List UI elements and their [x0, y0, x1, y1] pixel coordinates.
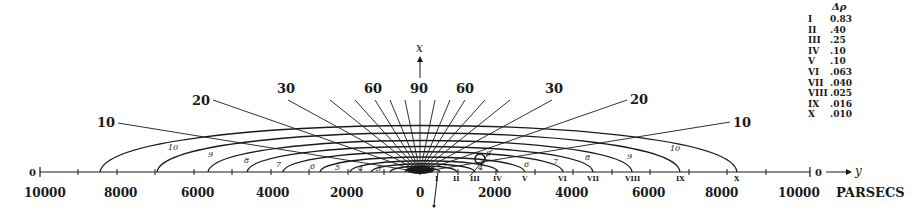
tick-label-left-4000: 4000: [256, 186, 289, 200]
y-axis-label: y: [854, 164, 862, 178]
x-axis-label: x: [416, 41, 423, 55]
legend-num: X: [808, 109, 830, 120]
legend-row: II.40: [808, 25, 908, 36]
legend-num: VII: [808, 78, 830, 89]
legend-row: V.10: [808, 56, 908, 67]
tick-label-left-10000: 10000: [24, 186, 66, 200]
legend-num: V: [808, 56, 830, 67]
legend-val: .25: [830, 35, 870, 46]
roman-X: X: [734, 174, 740, 183]
y-axis-arrow: [826, 169, 852, 175]
ellipse-num-10-left: 10: [168, 143, 178, 152]
legend-row: VIII.025: [808, 88, 908, 99]
legend-val: .040: [830, 78, 870, 89]
angle-label-60-right: 60: [456, 81, 474, 96]
roman-VII: VII: [586, 174, 599, 183]
legend-val: 0.83: [830, 14, 870, 25]
legend-header: Δρ: [808, 2, 908, 14]
roman-VI: VI: [557, 174, 567, 183]
units-label: PARSECS: [836, 185, 905, 200]
ellipse-num-6-right: 6: [524, 160, 529, 169]
angle-label-10-left: 10: [97, 115, 115, 130]
legend-row: IV.10: [808, 46, 908, 57]
end-zero-left: 0: [29, 167, 36, 178]
ellipse-num-8-left: 8: [244, 156, 249, 165]
radial-50-left: [355, 100, 420, 172]
legend-val: .10: [830, 46, 870, 57]
angle-label-60-left: 60: [364, 81, 382, 96]
roman-I: I: [435, 174, 438, 183]
tick-label-left-6000: 6000: [181, 186, 214, 200]
radial-lines: [118, 100, 730, 174]
ellipse-num-9-right: 9: [627, 152, 632, 161]
angle-label-20-right: 20: [630, 92, 648, 107]
tick-label-right-4000: 4000: [555, 186, 588, 200]
legend-row: VI.063: [808, 67, 908, 78]
legend-num: IV: [808, 46, 830, 57]
angle-label-20-left: 20: [192, 93, 210, 108]
legend-num: VIII: [808, 88, 830, 99]
legend-val: .010: [830, 109, 870, 120]
roman-VIII: VIII: [624, 174, 640, 183]
angle-label-90: 90: [410, 81, 428, 96]
tick-label-right-2000: 2000: [478, 186, 511, 200]
legend-row: I0.83: [808, 14, 908, 25]
ellipse-num-7-left: 7: [276, 160, 282, 169]
ellipse-num-9-left: 9: [208, 150, 213, 159]
ellipse-num-6-left: 6: [310, 162, 315, 171]
ellipse-num-7-right: 7: [553, 157, 559, 166]
ellipse-num-8-right: 8: [585, 153, 590, 162]
ellipse-num-5-left: 5: [335, 163, 340, 172]
legend-num: IX: [808, 99, 830, 110]
density-legend: Δρ I0.83 II.40 III.25 IV.10 V.10 VI.063 …: [808, 2, 908, 120]
legend-num: II: [808, 25, 830, 36]
end-zero-right: 0: [815, 167, 822, 178]
legend-num: I: [808, 14, 830, 25]
legend-row: III.25: [808, 35, 908, 46]
tick-label-center-0: 0: [416, 186, 424, 200]
tick-label-left-2000: 2000: [330, 186, 363, 200]
legend-num: III: [808, 35, 830, 46]
angle-label-10-right: 10: [733, 115, 751, 130]
tick-label-right-8000: 8000: [705, 186, 738, 200]
angle-label-30-right: 30: [545, 81, 563, 96]
legend-row: VII.040: [808, 78, 908, 89]
galactic-density-diagram: x 10 20 30 60 90 60 30 20 10 10 9 8 7 6 …: [0, 0, 916, 218]
legend-val: .063: [830, 67, 870, 78]
legend-num: VI: [808, 67, 830, 78]
legend-row: X.010: [808, 109, 908, 120]
x-axis-arrow: [417, 56, 423, 78]
roman-V: V: [521, 174, 528, 183]
roman-IX: IX: [676, 174, 685, 183]
angle-label-30-left: 30: [277, 81, 295, 96]
legend-val: .025: [830, 88, 870, 99]
tick-label-right-6000: 6000: [632, 186, 665, 200]
legend-val: .016: [830, 99, 870, 110]
legend-val: .10: [830, 56, 870, 67]
ellipse-num-10-right: 10: [670, 144, 680, 153]
radial-40-left: [330, 100, 420, 172]
legend-row: IX.016: [808, 99, 908, 110]
roman-III: III: [470, 174, 480, 183]
roman-II: II: [453, 174, 460, 183]
legend-val: .40: [830, 25, 870, 36]
tick-label-right-10000: 10000: [778, 186, 820, 200]
roman-IV: IV: [493, 174, 502, 183]
tick-label-left-8000: 8000: [104, 186, 137, 200]
direction-point: [433, 205, 436, 208]
